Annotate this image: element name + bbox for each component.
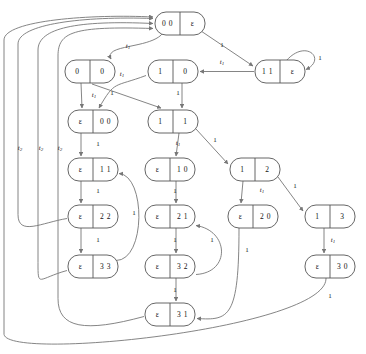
node-right-label: 0: [100, 67, 104, 76]
edge-label: t1: [126, 42, 130, 51]
state-node[interactable]: ε1 0: [145, 158, 195, 181]
node-right-label: 2: [265, 165, 269, 174]
state-node[interactable]: ε2 0: [228, 205, 278, 228]
edge-label: t2: [18, 144, 23, 153]
edge-label: 1: [293, 182, 297, 190]
edge-e-ne33-ne11: [116, 174, 139, 261]
edge-label: t1: [220, 58, 224, 67]
node-right-label: 3 1: [177, 310, 188, 319]
edge-label: 1: [245, 246, 249, 254]
state-node[interactable]: ε3 0: [305, 255, 355, 278]
node-left-label: ε: [239, 212, 243, 221]
edge-label: 1: [132, 209, 136, 217]
node-left-label: 0: [75, 67, 79, 76]
edge-e-1_2-1_3: [278, 177, 303, 211]
node-left-label: 1 1: [262, 67, 273, 76]
node-left-label: 1: [240, 165, 244, 174]
node-right-label: 3: [340, 212, 344, 221]
diagram-svg: 0 0ε1 1ε0010ε0 011ε1 112ε1 0ε2 2ε2 1ε2 0…: [0, 0, 366, 354]
edge-label: 1: [213, 136, 217, 144]
edge-label: 1: [96, 236, 100, 244]
state-node[interactable]: ε3 2: [145, 255, 195, 278]
node-right-label: 2 1: [177, 212, 188, 221]
state-node[interactable]: ε1 1: [68, 158, 118, 181]
node-right-label: ε: [291, 67, 295, 76]
node-left-label: ε: [79, 262, 83, 271]
node-left-label: ε: [79, 212, 83, 221]
edge-label: t1: [120, 70, 124, 79]
edge-e-1_1-1_2: [196, 129, 228, 164]
node-left-label: ε: [79, 117, 83, 126]
edge-label: 1: [110, 89, 114, 97]
node-right-label: 0 0: [100, 117, 111, 126]
edge-label: 1: [173, 187, 177, 195]
state-node[interactable]: 10: [148, 60, 198, 83]
state-node[interactable]: 0 0ε: [155, 12, 205, 35]
edge-label: t1: [92, 91, 96, 100]
edge-label: 1: [318, 54, 322, 62]
state-node[interactable]: ε2 2: [68, 205, 118, 228]
edge-label: t2: [58, 144, 63, 153]
state-node[interactable]: ε2 1: [145, 205, 195, 228]
edge-label: t1: [260, 186, 264, 195]
node-left-label: ε: [156, 165, 160, 174]
node-left-label: ε: [156, 262, 160, 271]
node-right-label: 2 0: [260, 212, 271, 221]
edge-label: t2: [39, 144, 44, 153]
node-right-label: 0: [183, 67, 187, 76]
edge-label: 1: [176, 89, 180, 97]
edge-e-0_0-1_1: [92, 84, 161, 108]
edge-e-0_0-ne00: [81, 83, 82, 108]
edge-label: 1: [328, 292, 332, 300]
node-right-label: 1 1: [100, 165, 111, 174]
node-right-label: ε: [191, 19, 195, 28]
node-left-label: 1: [158, 117, 162, 126]
node-left-label: ε: [156, 212, 160, 221]
state-node[interactable]: ε3 3: [68, 255, 118, 278]
state-node[interactable]: 13: [305, 205, 355, 228]
edge-label: 1: [220, 41, 224, 49]
edge-label: 1: [96, 187, 100, 195]
node-right-label: 1: [183, 117, 187, 126]
state-node[interactable]: 00: [65, 60, 115, 83]
state-node[interactable]: 12: [230, 158, 280, 181]
edge-label: 1: [173, 286, 177, 294]
state-node[interactable]: 1 1ε: [255, 60, 305, 83]
node-left-label: 0 0: [162, 19, 173, 28]
node-right-label: 3 3: [100, 262, 111, 271]
edge-label: t1: [331, 236, 335, 245]
node-right-label: 1 0: [177, 165, 188, 174]
node-layer: 0 0ε1 1ε0010ε0 011ε1 112ε1 0ε2 2ε2 1ε2 0…: [65, 12, 355, 326]
edge-e-root-0_0: [110, 33, 163, 59]
state-node[interactable]: 11: [148, 110, 198, 133]
edge-e-1_2-ne20: [241, 181, 243, 203]
edge-label: 1: [173, 236, 177, 244]
node-left-label: 1: [315, 212, 319, 221]
state-node[interactable]: ε3 1: [145, 303, 195, 326]
edge-label: 1: [210, 236, 214, 244]
edge-e-ne32-ne21: [196, 226, 222, 275]
node-left-label: ε: [316, 262, 320, 271]
node-right-label: 3 2: [177, 262, 188, 271]
node-left-label: 1: [158, 67, 162, 76]
diagram-canvas: 0 0ε1 1ε0010ε0 011ε1 112ε1 0ε2 2ε2 1ε2 0…: [0, 0, 366, 354]
node-left-label: ε: [156, 310, 160, 319]
state-node[interactable]: ε0 0: [68, 110, 118, 133]
edge-label: 1: [96, 140, 100, 148]
node-right-label: 2 2: [100, 212, 111, 221]
node-left-label: ε: [79, 165, 83, 174]
edge-e-root-11e: [201, 31, 253, 66]
node-right-label: 3 0: [337, 262, 348, 271]
